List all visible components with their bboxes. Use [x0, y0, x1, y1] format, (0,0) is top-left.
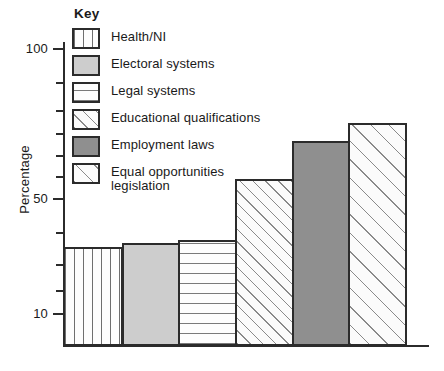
legend-label-equal-opportunities-legislation: Equal opportunities legislation [111, 162, 224, 193]
y-tick-label-50: 50 [14, 191, 48, 206]
y-tick-100 [53, 48, 63, 50]
y-tick-label-10: 10 [14, 306, 48, 321]
legend-item-legal-systems: Legal systems [72, 81, 260, 108]
y-tick-10 [53, 313, 63, 315]
y-axis-title: Percentage [17, 135, 32, 225]
legend-item-electoral-systems: Electoral systems [72, 54, 260, 81]
bar-legal-systems [178, 240, 237, 346]
bar-electoral-systems [122, 243, 180, 346]
bar-employment-laws [292, 141, 350, 346]
y-minor-tick-6 [56, 232, 63, 234]
legend-swatch-diagonal-hatch-wide-icon [72, 163, 100, 184]
y-minor-tick-1 [56, 82, 63, 84]
legend-label-health-ni: Health/NI [111, 27, 166, 44]
y-minor-tick-8 [56, 290, 63, 292]
bar-equal-opportunities-legislation [348, 123, 407, 346]
y-tick-50 [53, 198, 63, 200]
legend-swatch-solid-dark-grey-icon [72, 136, 100, 157]
legend-item-employment-laws: Employment laws [72, 135, 260, 162]
legend-swatch-vertical-lines-icon [72, 28, 100, 49]
legend-label-legal-systems: Legal systems [111, 81, 195, 98]
legend-swatch-horizontal-lines-icon [72, 82, 100, 103]
y-minor-tick-4 [56, 155, 63, 157]
y-minor-tick-5 [56, 176, 63, 178]
y-minor-tick-3 [56, 133, 63, 135]
legend-title: Key [74, 6, 260, 21]
legend-label-employment-laws: Employment laws [111, 135, 214, 152]
bar-chart: Percentage 100 50 10 Key Health/NI Elect… [0, 0, 444, 371]
legend-swatch-solid-light-grey-icon [72, 55, 100, 76]
legend-label-educational-qualifications: Educational qualifications [111, 108, 260, 125]
legend-swatch-diagonal-hatch-fine-icon [72, 109, 100, 130]
legend-item-health-ni: Health/NI [72, 27, 260, 54]
legend-label-electoral-systems: Electoral systems [111, 54, 215, 71]
bar-educational-qualifications [235, 179, 294, 346]
y-minor-tick-7 [56, 264, 63, 266]
legend: Key Health/NI Electoral systems Legal sy… [72, 6, 260, 196]
y-minor-tick-2 [56, 110, 63, 112]
bar-health-ni [63, 247, 123, 346]
y-tick-label-100: 100 [14, 41, 48, 56]
legend-item-educational-qualifications: Educational qualifications [72, 108, 260, 135]
legend-item-equal-opportunities-legislation: Equal opportunities legislation [72, 162, 260, 196]
